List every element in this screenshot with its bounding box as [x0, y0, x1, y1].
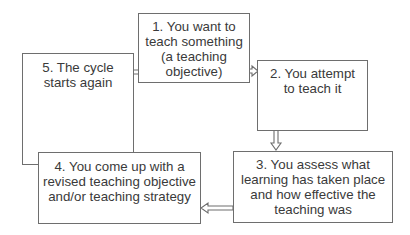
step-3-line: and how effective the [234, 187, 392, 202]
step-4-box: 4. You come up with a revised teaching o… [38, 152, 201, 224]
step-4-line: and/or teaching strategy [39, 189, 200, 204]
step-5-line: 5. The cycle [23, 60, 133, 75]
step-3-box: 3. You assess what learning has taken pl… [233, 151, 393, 223]
step-3-line: learning has taken place [234, 172, 392, 187]
step-1-line: (a teaching [139, 49, 249, 64]
step-4-line: revised teaching objective [39, 174, 200, 189]
step-1-line: teach something [139, 34, 249, 49]
step-3-line: teaching was [234, 202, 392, 217]
step-2-line: 2. You attempt [258, 66, 367, 81]
step-5-line: starts again [23, 75, 133, 90]
step-2-box: 2. You attempt to teach it [257, 60, 368, 131]
step-3-line: 3. You assess what [234, 157, 392, 172]
step-4-line: 4. You come up with a [39, 159, 200, 174]
step-2-line: to teach it [258, 81, 367, 96]
step-1-box: 1. You want to teach something (a teachi… [138, 13, 250, 83]
step-1-line: 1. You want to [139, 19, 249, 34]
arrow-down-icon [271, 128, 281, 150]
arrow-left-icon [201, 203, 233, 213]
step-1-line: objective) [139, 64, 249, 79]
step-5-box: 5. The cycle starts again [22, 53, 134, 165]
